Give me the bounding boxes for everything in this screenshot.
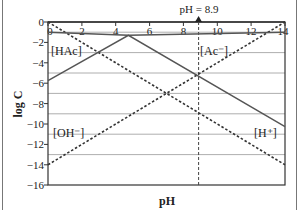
y-tick-labels: 0 −2 −4 −6 −8 −10 −12 −14 −16	[27, 16, 45, 191]
svg-text:−12: −12	[27, 138, 44, 150]
svg-text:−4: −4	[32, 57, 44, 69]
oh-minus-label: [OH⁻]	[53, 126, 84, 140]
plot-area	[48, 22, 285, 185]
svg-text:0: 0	[47, 25, 53, 37]
h-plus-label: [H⁺]	[254, 126, 277, 140]
svg-text:0: 0	[39, 16, 45, 28]
hac-label: [HAc]	[51, 44, 82, 58]
svg-text:10: 10	[212, 25, 224, 37]
svg-text:2: 2	[79, 25, 85, 37]
svg-text:−6: −6	[32, 77, 44, 89]
ph-marker-label: pH = 8.9	[180, 3, 219, 15]
svg-text:−14: −14	[27, 159, 45, 171]
ph-marker-arrow-icon	[195, 16, 202, 22]
log-c-vs-ph-chart: 0 2 4 6 8 10 12 14 0 −2 −4 −6 −8 −10 −12…	[0, 0, 298, 211]
svg-text:8: 8	[181, 25, 187, 37]
hac-line	[48, 32, 285, 126]
ac-minus-line	[48, 32, 285, 80]
svg-text:−8: −8	[32, 98, 44, 110]
y-axis-label: log C	[11, 91, 25, 118]
svg-text:−10: −10	[27, 118, 45, 130]
ac-minus-label: [Ac⁻]	[200, 44, 228, 58]
svg-text:−2: −2	[32, 36, 44, 48]
x-axis-label: pH	[159, 194, 176, 208]
svg-text:−16: −16	[27, 179, 45, 191]
svg-text:12: 12	[246, 25, 257, 37]
svg-text:14: 14	[278, 25, 290, 37]
